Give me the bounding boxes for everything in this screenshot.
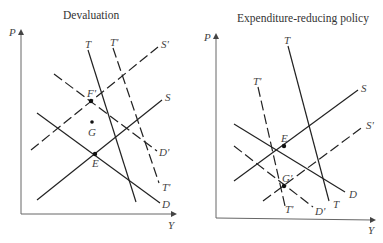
right-x-axis-label: Y [368, 224, 376, 236]
right-y-axis-label: P [203, 31, 211, 43]
left-label-D: D [161, 198, 170, 210]
left-label-F-prime: F' [86, 87, 97, 99]
left-label-S-prime: S' [161, 38, 170, 50]
left-label-G: G [88, 126, 96, 138]
right-label-G-prime: G' [282, 172, 293, 184]
right-label-T-prime: T' [285, 203, 294, 215]
right-point-E [282, 144, 286, 148]
left-curve-S [37, 100, 162, 200]
right-panel: P Y T T T' T' S S' D D' E G' [203, 31, 376, 236]
left-label-T-prime: T' [162, 181, 171, 193]
left-point-G [90, 120, 94, 124]
right-label-T-top: T [284, 34, 291, 46]
left-point-F-prime [89, 99, 93, 103]
left-label-T-prime-top: T' [110, 36, 119, 48]
left-curve-T-prime [113, 48, 159, 183]
left-label-D-prime: D' [158, 146, 170, 158]
right-x-axis [216, 218, 373, 220]
right-label-S: S [361, 82, 367, 94]
right-label-T-prime-top: T' [253, 75, 262, 87]
left-label-S: S [165, 91, 171, 103]
right-label-D: D [348, 188, 357, 200]
right-label-D-prime: D' [314, 205, 326, 217]
left-label-E: E [91, 157, 99, 169]
left-y-axis-label: P [8, 26, 16, 38]
left-curve-D-prime [54, 74, 157, 151]
left-x-axis-label: Y [168, 219, 176, 231]
left-point-E [93, 152, 97, 156]
right-label-T: T [333, 198, 340, 210]
right-point-G-prime [282, 184, 286, 188]
right-label-S-prime: S' [366, 119, 375, 131]
diagram-canvas: P Y T T' T' S S' D D' F' G E P Y [0, 0, 383, 243]
right-curve-D-prime [234, 146, 313, 207]
left-panel: P Y T T' T' S S' D D' F' G E [8, 26, 176, 231]
left-label-T: T [85, 38, 92, 50]
right-label-E: E [280, 132, 288, 144]
